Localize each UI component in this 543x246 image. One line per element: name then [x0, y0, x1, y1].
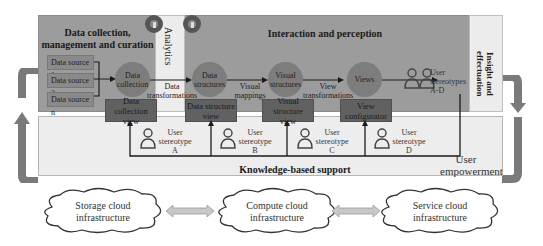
user-icon-d [374, 128, 390, 150]
data-source-1: Data source 1 [47, 55, 94, 70]
user-icon-c [297, 128, 313, 150]
storage-cloud-label: Storage cloud infrastructure [48, 200, 158, 224]
data-collection-heading: Data collection, management and curation [40, 27, 155, 51]
data-source-2: Data source 2 [47, 73, 94, 88]
user-stereotype-b-label: User stereotype B [235, 128, 275, 155]
double-arrow-icon [166, 205, 214, 217]
service-cloud-label: Service cloud infrastructure [385, 200, 495, 224]
user-empowerment-label: User empowerment [440, 153, 500, 177]
user-icon-b [220, 128, 236, 150]
node-data-collection: Data collection [115, 62, 150, 97]
gear-icon [183, 15, 201, 33]
loop-arrow-right-icon [500, 75, 530, 185]
node-visual-structures: Visual structures [268, 62, 303, 97]
users-group-label: User stereotypes A-D [430, 68, 468, 95]
knowledge-support-label: Knowledge-based support [210, 164, 380, 176]
data-source-n: Data source n [47, 92, 94, 107]
compute-cloud-label: Compute cloud infrastructure [222, 200, 332, 224]
node-data-structures: Data structures [192, 62, 227, 97]
user-icon-a [140, 128, 156, 150]
double-arrow-icon [332, 205, 380, 217]
analytics-label: Analytics [163, 24, 174, 69]
user-stereotype-c-label: User stereotype C [312, 128, 352, 155]
user-stereotype-a-label: User stereotype A [155, 128, 195, 155]
source-connector [94, 58, 116, 100]
interaction-heading: Interaction and perception [250, 28, 400, 40]
gear-icon [145, 15, 163, 33]
user-stereotype-d-label: User stereotype D [389, 128, 429, 155]
